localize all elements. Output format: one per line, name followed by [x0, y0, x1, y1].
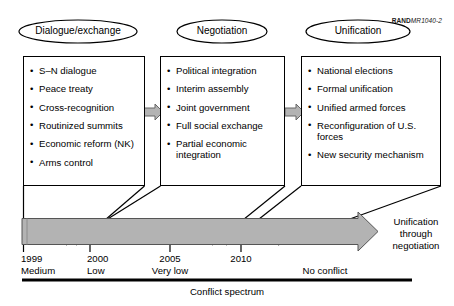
stage-2-bullet-list: Political integration Interim assembly J… — [167, 65, 279, 161]
list-item: Interim assembly — [167, 83, 279, 94]
list-item: New security mechanism — [308, 149, 435, 160]
conflict-spectrum-caption: Conflict spectrum — [0, 286, 454, 297]
unification-progress-arrow-band — [22, 212, 378, 251]
list-item: S–N dialogue — [30, 65, 139, 76]
timeline-label-2000: 2000 Low — [87, 253, 108, 277]
list-item: Routinized summits — [30, 120, 139, 131]
arrow-caption-line-1: Unification — [381, 216, 451, 228]
stage-1-title: Dialogue/exchange — [19, 26, 137, 36]
stage-2-title: Negotiation — [177, 26, 267, 36]
rand-document-number: MR1040-2 — [411, 17, 442, 24]
stage-2-content-box: Political integration Interim assembly J… — [160, 56, 285, 186]
stage-3-content-box: National elections Formal unification Un… — [301, 56, 441, 186]
timeline-year-2000: 2000 — [87, 253, 108, 265]
list-item: Full social exchange — [167, 120, 279, 131]
timeline-label-2010: 2010 — [230, 253, 251, 265]
stage-1-bullet-list: S–N dialogue Peace treaty Cross-recognit… — [30, 65, 139, 168]
list-item: Unified armed forces — [308, 102, 435, 113]
conflict-level-1999: Medium — [21, 265, 55, 277]
stage-3-left-connector — [226, 186, 301, 245]
timeline-label-2005: 2005 Very low — [152, 253, 188, 277]
list-item: Partial economic integration — [167, 138, 279, 160]
list-item: Peace treaty — [30, 83, 139, 94]
arrow-head-caption: Unification through negotiation — [381, 216, 451, 253]
arrow-caption-line-2: through — [381, 228, 451, 240]
list-item: National elections — [308, 65, 435, 76]
stage-1-right-connector — [76, 186, 145, 245]
list-item: Formal unification — [308, 83, 435, 94]
list-item: Cross-recognition — [30, 102, 139, 113]
stage-3-title: Unification — [306, 26, 410, 36]
rand-brand-label: RAND — [392, 17, 411, 24]
timeline-year-2010: 2010 — [230, 253, 251, 265]
stage-2-right-connector — [212, 186, 285, 245]
korea-unification-roadmap-figure: RANDMR1040-2 — [0, 0, 454, 306]
timeline-year-1999: 1999 — [21, 253, 55, 265]
stage-2-left-connector — [66, 186, 161, 245]
list-item: Joint government — [167, 102, 279, 113]
list-item: Economic reform (NK) — [30, 138, 139, 149]
list-item: Arms control — [30, 157, 139, 168]
list-item: Reconfiguration of U.S. forces — [308, 120, 435, 142]
conflict-level-2005: Very low — [152, 265, 188, 277]
timeline-year-2005: 2005 — [152, 253, 188, 265]
list-item: Political integration — [167, 65, 279, 76]
stage-3-bullet-list: National elections Formal unification Un… — [308, 65, 435, 161]
timeline-label-1999: 1999 Medium — [21, 253, 55, 277]
rand-document-credit: RANDMR1040-2 — [392, 17, 442, 24]
stage-1-content-box: S–N dialogue Peace treaty Cross-recognit… — [23, 56, 145, 186]
arrow-caption-line-3: negotiation — [381, 240, 451, 252]
conflict-level-2000: Low — [87, 265, 108, 277]
conflict-level-end: No conflict — [303, 265, 348, 277]
